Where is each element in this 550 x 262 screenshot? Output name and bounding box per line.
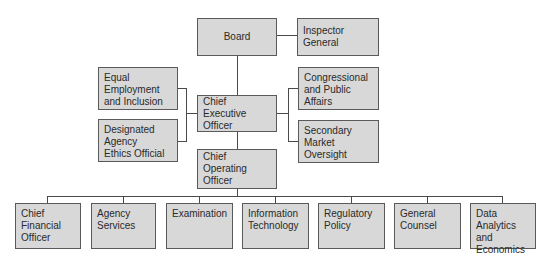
ceo-coo-connector xyxy=(237,131,238,149)
division-regulatory-policy: Regulatory Policy xyxy=(318,203,385,249)
right-bracket-top xyxy=(288,88,298,89)
division-cfo: Chief Financial Officer xyxy=(15,203,81,249)
congressional-affairs-box: Congressional and Public Affairs xyxy=(298,67,379,110)
right-bracket-vertical xyxy=(288,88,289,142)
right-bracket-bottom xyxy=(288,141,298,142)
division-drop-7 xyxy=(502,196,503,203)
secondary-market-box: Secondary Market Oversight xyxy=(298,120,379,163)
coo-divisions-connector xyxy=(237,188,238,196)
ethics-official-box: Designated Agency Ethics Official xyxy=(98,119,178,162)
inspector-general-box: Inspector General xyxy=(297,18,379,56)
left-bracket-vertical xyxy=(186,88,187,142)
division-agency-services: Agency Services xyxy=(91,203,156,249)
division-data-analytics: Data Analytics and Economics xyxy=(470,203,536,249)
equal-employment-box: Equal Employment and Inclusion xyxy=(98,67,178,110)
division-drop-2 xyxy=(123,196,124,203)
division-drop-4 xyxy=(275,196,276,203)
division-general-counsel: General Counsel xyxy=(394,203,461,249)
division-drop-3 xyxy=(199,196,200,203)
division-drop-1 xyxy=(47,196,48,203)
board-ceo-connector xyxy=(237,56,238,95)
division-drop-6 xyxy=(427,196,428,203)
board-inspector-connector xyxy=(276,35,297,36)
board-box: Board xyxy=(197,18,277,56)
left-bracket-to-ceo xyxy=(186,113,197,114)
coo-box: Chief Operating Officer xyxy=(197,149,277,189)
ceo-box: Chief Executive Officer xyxy=(197,95,277,132)
division-information-technology: Information Technology xyxy=(242,203,309,249)
division-drop-5 xyxy=(351,196,352,203)
division-examination: Examination xyxy=(166,203,233,249)
